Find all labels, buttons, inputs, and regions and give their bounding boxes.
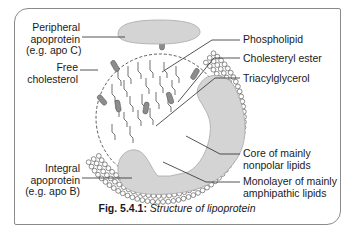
label-line: Monolayer of mainly bbox=[243, 176, 337, 188]
label-line: (e.g. apo B) bbox=[22, 186, 80, 198]
label-line: nonpolar lipids bbox=[243, 160, 311, 172]
caption-number: Fig. 5.4.1: bbox=[98, 202, 146, 214]
peripheral-apoprotein-shape bbox=[118, 20, 200, 44]
label-line: Core of mainly bbox=[243, 148, 311, 160]
label-line: Integral bbox=[22, 163, 80, 175]
label-line: cholesterol bbox=[26, 74, 78, 86]
label-line: Peripheral bbox=[26, 22, 80, 34]
caption-title: Structure of lipoprotein bbox=[150, 202, 256, 214]
label-line: amphipathic lipids bbox=[243, 188, 337, 200]
label-line: (e.g. apo C) bbox=[26, 45, 80, 57]
label-line: Triacylglycerol bbox=[243, 73, 310, 85]
label-triacylglycerol: Triacylglycerol bbox=[243, 73, 310, 85]
lipoprotein-figure: Peripheral apoprotein (e.g. apo C) Free … bbox=[0, 0, 354, 232]
label-peripheral-apoprotein: Peripheral apoprotein (e.g. apo C) bbox=[26, 22, 80, 57]
label-monolayer: Monolayer of mainly amphipathic lipids bbox=[243, 176, 337, 199]
figure-caption: Fig. 5.4.1: Structure of lipoprotein bbox=[0, 202, 354, 214]
label-line: Phospholipid bbox=[243, 34, 303, 46]
label-phospholipid: Phospholipid bbox=[243, 34, 303, 46]
label-line: Free bbox=[26, 62, 78, 74]
label-free-cholesterol: Free cholesterol bbox=[26, 62, 78, 85]
label-line: Cholesteryl ester bbox=[243, 53, 322, 65]
label-cholesteryl-ester: Cholesteryl ester bbox=[243, 53, 322, 65]
label-core: Core of mainly nonpolar lipids bbox=[243, 148, 311, 171]
integral-apoprotein-shape bbox=[118, 75, 245, 194]
label-integral-apoprotein: Integral apoprotein (e.g. apo B) bbox=[22, 163, 80, 198]
